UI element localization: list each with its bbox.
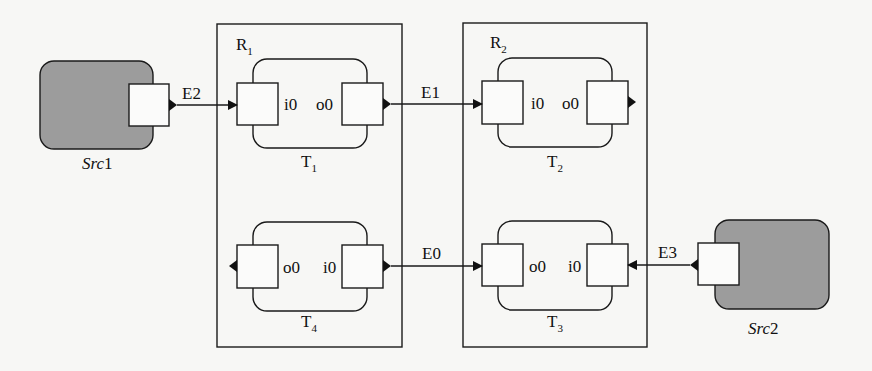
task-t4-port-left-label: o0 (283, 258, 300, 277)
task-t3-port-i0[interactable] (587, 244, 628, 286)
task-t1-output-arrow-icon (383, 98, 391, 110)
source-src2-label: Src2 (748, 319, 779, 338)
task-t1-port-right-label: o0 (316, 95, 333, 114)
source-src2-port[interactable] (698, 243, 739, 285)
edge-e3-label: E3 (658, 243, 677, 262)
task-t2[interactable]: i0 o0 T2 (482, 58, 636, 174)
edge-e1[interactable]: E1 (391, 83, 482, 104)
task-t1-label: T1 (301, 152, 317, 174)
source-src2[interactable]: Src2 (690, 220, 829, 338)
task-t2-port-o0[interactable] (587, 81, 628, 124)
edge-e0-label: E0 (422, 244, 441, 263)
task-t3-port-o0[interactable] (482, 244, 523, 286)
edge-e3[interactable]: E3 (628, 243, 690, 265)
task-t2-label: T2 (547, 152, 563, 174)
task-t2-port-left-label: i0 (531, 94, 544, 113)
edge-e2-label: E2 (182, 84, 201, 103)
task-t2-port-right-label: o0 (562, 94, 579, 113)
source-src1-label: Src1 (82, 154, 113, 173)
source-src2-output-arrow-icon (690, 259, 698, 271)
edge-e1-label: E1 (421, 83, 440, 102)
region-r2-label: R2 (490, 33, 507, 55)
task-t4-port-right-label: i0 (323, 258, 336, 277)
edge-e0[interactable]: E0 (383, 244, 482, 272)
task-t2-port-i0[interactable] (482, 81, 523, 124)
task-t4-port-o0[interactable] (237, 245, 278, 288)
source-src1-port[interactable] (129, 84, 169, 126)
dataflow-diagram: R1 R2 i0 o0 T1 i0 o0 T2 o0 i0 T4 (0, 0, 872, 371)
source-src1[interactable]: Src1 (40, 61, 177, 173)
task-t4-label: T4 (301, 312, 317, 334)
task-t4[interactable]: o0 i0 T4 (229, 222, 383, 334)
task-t3-label: T3 (547, 312, 563, 334)
task-t1-port-i0[interactable] (237, 83, 278, 125)
task-t3[interactable]: o0 i0 T3 (482, 221, 628, 334)
task-t3-port-right-label: i0 (568, 257, 581, 276)
task-t3-port-left-label: o0 (529, 257, 546, 276)
task-t1-port-left-label: i0 (284, 95, 297, 114)
task-t2-output-arrow-icon (628, 96, 636, 108)
task-t4-output-arrow-icon (229, 260, 237, 272)
edge-e2[interactable]: E2 (177, 84, 237, 105)
task-t1-port-o0[interactable] (342, 83, 383, 125)
task-t1[interactable]: i0 o0 T1 (237, 59, 391, 174)
edge-e0-source-arrow-icon (383, 260, 391, 272)
task-t4-port-i0[interactable] (342, 245, 383, 288)
region-r1-label: R1 (236, 35, 253, 57)
source-src1-output-arrow-icon (169, 99, 177, 111)
